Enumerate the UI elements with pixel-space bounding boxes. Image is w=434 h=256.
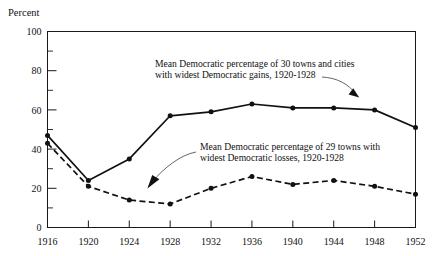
data-point-marker <box>372 184 377 189</box>
losses-annotation-line2: widest Democratic losses, 1920-1928 <box>200 152 344 163</box>
data-point-marker <box>249 102 254 107</box>
data-point-marker <box>86 178 91 183</box>
data-point-marker <box>331 105 336 110</box>
x-tick-label: 1928 <box>160 236 180 247</box>
x-tick-label: 1924 <box>119 236 139 247</box>
data-point-marker <box>209 186 214 191</box>
y-tick-label: 20 <box>32 183 42 194</box>
data-point-marker <box>127 198 132 203</box>
line-chart: Percent 020406080100 1916192019241928193… <box>0 0 434 256</box>
x-tick-label: 1944 <box>324 236 344 247</box>
data-point-marker <box>413 125 418 130</box>
chart-container: Percent 020406080100 1916192019241928193… <box>0 0 434 256</box>
x-tick-label: 1920 <box>78 236 98 247</box>
x-tick-label: 1936 <box>242 236 262 247</box>
data-point-marker <box>372 107 377 112</box>
x-tick-label: 1932 <box>201 236 221 247</box>
y-tick-label: 100 <box>27 26 42 37</box>
data-point-marker <box>249 174 254 179</box>
chart-background <box>0 0 434 256</box>
data-point-marker <box>168 201 173 206</box>
data-point-marker <box>45 133 50 138</box>
data-point-marker <box>209 109 214 114</box>
x-tick-label: 1952 <box>406 236 426 247</box>
y-tick-label: 80 <box>32 65 42 76</box>
x-tick-label: 1940 <box>283 236 303 247</box>
data-point-marker <box>290 105 295 110</box>
y-tick-label: 40 <box>32 144 42 155</box>
data-point-marker <box>45 141 50 146</box>
y-tick-label: 60 <box>32 105 42 116</box>
y-tick-label: 0 <box>37 222 42 233</box>
gains-annotation-line2: with widest Democratic gains, 1920-1928 <box>155 69 316 80</box>
data-point-marker <box>127 156 132 161</box>
x-tick-label: 1948 <box>365 236 385 247</box>
x-tick-label: 1916 <box>38 236 58 247</box>
data-point-marker <box>290 182 295 187</box>
data-point-marker <box>86 184 91 189</box>
data-point-marker <box>413 192 418 197</box>
data-point-marker <box>331 178 336 183</box>
gains-annotation-line1: Mean Democratic percentage of 30 towns a… <box>155 58 355 69</box>
y-axis-title: Percent <box>8 7 40 18</box>
data-point-marker <box>168 113 173 118</box>
losses-annotation-line1: Mean Democratic percentage of 29 towns w… <box>200 141 380 152</box>
